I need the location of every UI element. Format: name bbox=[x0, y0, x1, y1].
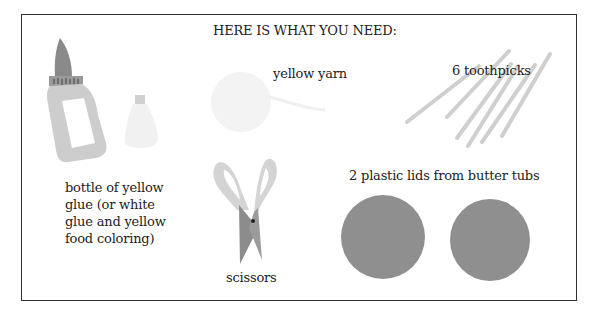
glue-label-line: glue and yellow bbox=[65, 213, 185, 230]
glue-label-line: food coloring) bbox=[65, 230, 185, 247]
page-title: HERE IS WHAT YOU NEED: bbox=[213, 22, 397, 39]
toothpicks-label: 6 toothpicks bbox=[452, 62, 531, 79]
lids-label: 2 plastic lids from butter tubs bbox=[349, 167, 539, 184]
scissors-label: scissors bbox=[226, 269, 277, 286]
glue-bottle-icon bbox=[47, 38, 107, 162]
plastic-lid-icon bbox=[341, 195, 425, 279]
yarn-label: yellow yarn bbox=[273, 65, 347, 82]
glue-label-line: glue (or white bbox=[65, 196, 185, 213]
scissors-icon bbox=[213, 159, 277, 264]
food-coloring-bottle-icon bbox=[125, 95, 158, 148]
illustrations bbox=[0, 0, 598, 312]
plastic-lid-icon bbox=[450, 199, 530, 281]
plastic-lids-group bbox=[341, 195, 530, 281]
glue-label-line: bottle of yellow bbox=[65, 179, 185, 196]
glue-label: bottle of yellow glue (or white glue and… bbox=[65, 179, 185, 247]
